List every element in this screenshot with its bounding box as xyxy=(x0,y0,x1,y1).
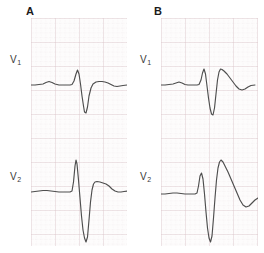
panel-label-b: B xyxy=(154,6,162,17)
panel-label-a: A xyxy=(26,6,34,17)
lead-label-b-v1: V1 xyxy=(140,55,151,66)
grid-lines-a xyxy=(31,18,127,246)
lead-label-b-v2-text: V xyxy=(140,171,147,182)
ecg-panel-a xyxy=(31,18,127,246)
lead-label-a-v1-sub: 1 xyxy=(17,59,21,66)
lead-label-a-v1-text: V xyxy=(10,54,17,65)
ecg-figure: A B V1 V2 V1 V2 xyxy=(0,0,264,253)
lead-label-a-v2-text: V xyxy=(10,171,17,182)
lead-label-b-v1-text: V xyxy=(140,54,147,65)
lead-label-a-v2-sub: 2 xyxy=(17,176,21,183)
lead-label-a-v1: V1 xyxy=(10,55,21,66)
lead-label-b-v2: V2 xyxy=(140,172,151,183)
ecg-plot-b xyxy=(161,18,258,246)
lead-label-b-v1-sub: 1 xyxy=(147,59,151,66)
ecg-panel-b xyxy=(161,18,258,246)
ecg-plot-a xyxy=(31,18,127,246)
grid-lines-b xyxy=(161,18,258,246)
lead-label-a-v2: V2 xyxy=(10,172,21,183)
lead-label-b-v2-sub: 2 xyxy=(147,176,151,183)
